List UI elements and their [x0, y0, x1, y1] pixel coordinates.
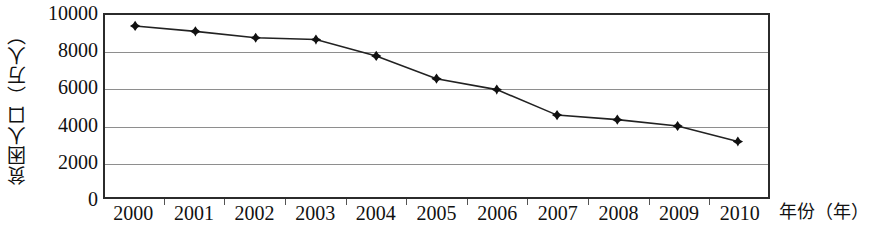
y-axis-tick-label: 6000 — [58, 77, 98, 97]
y-axis-tick-label: 10000 — [48, 3, 98, 23]
data-point-marker — [672, 121, 682, 131]
x-axis-tick-label: 2003 — [295, 203, 335, 223]
data-point-marker — [733, 136, 743, 146]
y-axis-tick-labels: 0200040006000800010000 — [30, 0, 98, 228]
data-point-marker — [130, 21, 140, 31]
x-axis-tick-label: 2009 — [659, 203, 699, 223]
y-axis-title-label: 贫困人口（万人） — [8, 25, 27, 185]
y-axis-tick-label: 8000 — [58, 40, 98, 60]
x-axis-tick-label: 2000 — [113, 203, 153, 223]
x-axis-tick-label: 2008 — [598, 203, 638, 223]
series-line-and-markers — [105, 15, 768, 197]
x-axis-title: 年份（年） — [779, 203, 869, 221]
data-point-marker — [612, 115, 622, 125]
x-axis-tick-labels: 2000200120022003200420052006200720082009… — [103, 200, 770, 228]
data-point-marker — [431, 74, 441, 84]
x-axis-tick-label: 2006 — [477, 203, 517, 223]
y-axis-tick-label: 0 — [88, 189, 98, 209]
data-point-marker — [311, 34, 321, 44]
data-point-marker — [251, 33, 261, 43]
y-axis-tick-label: 2000 — [58, 152, 98, 172]
x-axis-tick-label: 2001 — [174, 203, 214, 223]
poverty-population-line-chart: 贫困人口（万人） 0200040006000800010000 20002001… — [0, 0, 869, 228]
x-axis-tick-label: 2007 — [538, 203, 578, 223]
y-axis-tick-label: 4000 — [58, 115, 98, 135]
x-axis-tick-label: 2005 — [417, 203, 457, 223]
x-axis-tick-label: 2004 — [356, 203, 396, 223]
data-point-marker — [552, 110, 562, 120]
data-point-marker — [492, 85, 502, 95]
x-axis-tick-label: 2010 — [720, 203, 760, 223]
data-point-marker — [190, 26, 200, 36]
x-axis-tick-label: 2002 — [235, 203, 275, 223]
data-point-marker — [371, 51, 381, 61]
y-axis-title: 贫困人口（万人） — [0, 0, 34, 210]
plot-area — [103, 13, 770, 199]
